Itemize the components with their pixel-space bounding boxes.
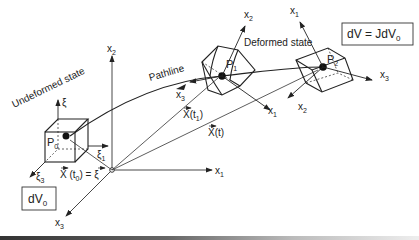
x-t-label: X(t)	[208, 127, 224, 138]
undeformed-state-label: Undeformed state	[10, 65, 87, 110]
vector-x-t1	[112, 78, 218, 170]
position-vectors	[70, 70, 318, 170]
p2-label: P2	[327, 53, 338, 67]
dv-jacobian-box: dV = JdV0	[342, 23, 413, 45]
p2-x2-label: x2	[298, 101, 307, 114]
p1-x2-label: x2	[244, 9, 253, 22]
p1-x1-label: x1	[268, 105, 277, 118]
xi-label: ξ	[62, 97, 67, 109]
p1-label: P1	[226, 58, 237, 72]
p1-x3-label: x3	[176, 89, 185, 102]
xi3-label: ξ3	[36, 171, 44, 184]
pathline-label: Pathline	[148, 62, 186, 83]
vector-x-t0	[70, 140, 112, 170]
p0-label: P0	[47, 136, 58, 150]
continuum-deformation-diagram: Undeformed state Deformed state Pathline…	[0, 0, 419, 240]
global-x1-label: x1	[215, 165, 224, 178]
particle-p0	[63, 133, 70, 140]
global-x3-label: x3	[55, 217, 64, 230]
global-x2-label: x2	[107, 43, 116, 56]
x-t0-equation: X (t0) = ξ	[60, 169, 99, 182]
p2-x3-axis	[323, 67, 372, 80]
dv-jacobian-label: dV = JdV0	[347, 27, 401, 43]
pathline-curve	[70, 67, 323, 136]
x-t1-label: X(t1)	[183, 109, 203, 122]
bottom-edge-band	[0, 236, 419, 240]
deformed-state-label: Deformed state	[244, 37, 313, 48]
p2-x1-label: x1	[290, 5, 299, 18]
p2-x3-label: x3	[380, 69, 389, 82]
dv0-box: dV0	[22, 187, 56, 210]
deformed-cube-p1	[202, 46, 255, 95]
